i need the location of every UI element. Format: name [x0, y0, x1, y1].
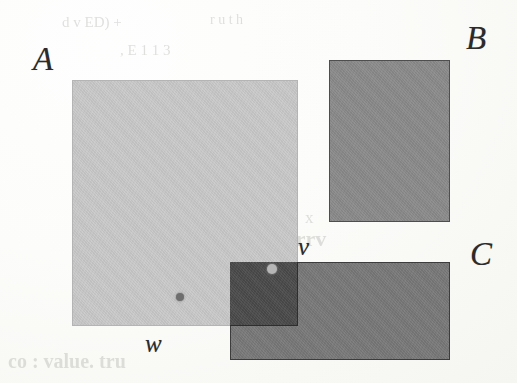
background-ghost-text: x: [305, 208, 314, 228]
background-ghost-text: , E 1 1 3: [120, 42, 170, 59]
label-w: w: [145, 331, 162, 356]
point-marker-v[interactable]: [267, 264, 277, 274]
figure-canvas: d v ED) + r u t h , E 1 1 3 n o Legend. …: [0, 0, 517, 383]
rectangle-b[interactable]: [329, 60, 450, 222]
background-ghost-text: co : value. tru: [8, 350, 126, 373]
rectangle-a-c-intersection[interactable]: [230, 262, 298, 326]
background-ghost-text: d v ED) +: [62, 14, 122, 31]
label-v: v: [298, 234, 309, 259]
label-c: C: [470, 238, 492, 271]
point-marker-w[interactable]: [176, 293, 184, 301]
background-ghost-text: r u t h: [210, 12, 243, 28]
label-a: A: [33, 43, 53, 76]
label-b: B: [466, 22, 486, 55]
